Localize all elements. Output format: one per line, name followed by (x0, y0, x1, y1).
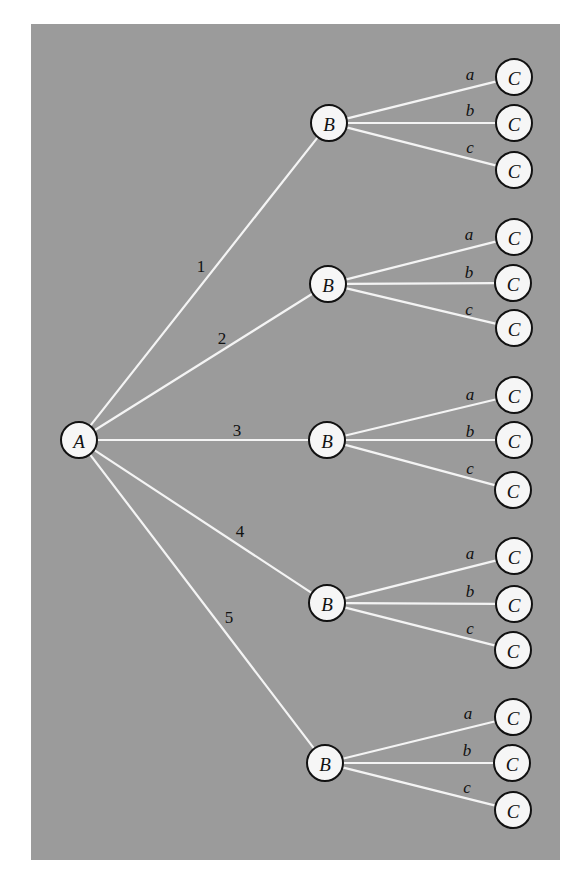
node-c-b4-a: C (496, 538, 532, 574)
node-c-b1-b: C (496, 105, 532, 141)
node-b2-label: B (322, 275, 334, 296)
edge-label-b1-c: c (466, 138, 474, 157)
node-c-b4-b-label: C (508, 595, 521, 616)
node-c-b3-b: C (496, 422, 532, 458)
node-b1: B (311, 105, 347, 141)
tree-diagram: 1abc2abc3abc4abc5abc ABCCCBCCCBCCCBCCCBC… (0, 0, 582, 876)
node-c-b1-a-label: C (508, 68, 521, 89)
node-c-b1-a: C (496, 59, 532, 95)
node-c-b2-b-label: C (507, 274, 520, 295)
node-c-b4-b: C (496, 586, 532, 622)
edge-label-4: 4 (236, 522, 245, 541)
node-c-b5-b: C (494, 745, 530, 781)
edge-label-b2-a: a (465, 225, 474, 244)
node-b1-label: B (323, 114, 335, 135)
node-c-b5-c: C (495, 792, 531, 828)
node-b4: B (309, 585, 345, 621)
node-c-b3-b-label: C (508, 431, 521, 452)
edge-label-b3-c: c (466, 459, 474, 478)
node-c-b4-c-label: C (507, 641, 520, 662)
edge-label-b3-a: a (466, 385, 475, 404)
edge-label-b2-c: c (465, 300, 473, 319)
node-b3: B (309, 422, 345, 458)
node-b2: B (310, 266, 346, 302)
node-b5: B (307, 745, 343, 781)
node-a-label: A (71, 431, 85, 452)
node-c-b2-a-label: C (508, 228, 521, 249)
node-c-b1-b-label: C (508, 114, 521, 135)
node-c-b4-c: C (495, 632, 531, 668)
node-b4-label: B (321, 594, 333, 615)
node-c-b2-c: C (496, 310, 532, 346)
node-c-b5-a: C (495, 699, 531, 735)
node-c-b2-a: C (496, 219, 532, 255)
edge-label-3: 3 (233, 421, 242, 440)
edge-label-b3-b: b (466, 422, 475, 441)
node-c-b3-a-label: C (508, 386, 521, 407)
edge-label-b1-b: b (466, 101, 475, 120)
node-c-b4-a-label: C (508, 547, 521, 568)
node-c-b1-c: C (496, 152, 532, 188)
edge-label-5: 5 (225, 608, 234, 627)
edge-label-b1-a: a (466, 65, 475, 84)
node-b3-label: B (321, 431, 333, 452)
edge-label-b4-a: a (466, 544, 475, 563)
edge-b2-to-c-b (346, 283, 495, 284)
node-c-b2-b: C (495, 265, 531, 301)
node-c-b3-a: C (496, 377, 532, 413)
node-c-b5-a-label: C (507, 708, 520, 729)
node-b5-label: B (319, 754, 331, 775)
node-c-b3-c-label: C (507, 481, 520, 502)
diagram-background-panel (31, 24, 560, 860)
node-c-b5-b-label: C (506, 754, 519, 775)
edge-label-b5-a: a (464, 704, 473, 723)
node-c-b3-c: C (495, 472, 531, 508)
edge-b4-to-c-b (345, 603, 496, 604)
edge-label-b4-c: c (466, 619, 474, 638)
node-c-b2-c-label: C (508, 319, 521, 340)
node-c-b5-c-label: C (507, 801, 520, 822)
edge-label-b5-b: b (463, 741, 472, 760)
node-c-b1-c-label: C (508, 161, 521, 182)
edge-label-2: 2 (218, 329, 227, 348)
edge-label-1: 1 (197, 257, 206, 276)
edge-label-b2-b: b (465, 263, 474, 282)
edge-label-b4-b: b (466, 582, 475, 601)
node-a: A (61, 422, 97, 458)
edge-label-b5-c: c (463, 778, 471, 797)
